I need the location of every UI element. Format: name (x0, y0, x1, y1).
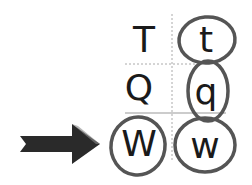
letter-W: W (121, 126, 157, 162)
letter-t: t (199, 22, 213, 58)
letter-T: T (133, 22, 155, 58)
right-arrow-icon (20, 124, 100, 164)
letter-q: q (195, 74, 218, 110)
letter-w: w (190, 128, 219, 164)
letter-Q: Q (125, 70, 153, 106)
